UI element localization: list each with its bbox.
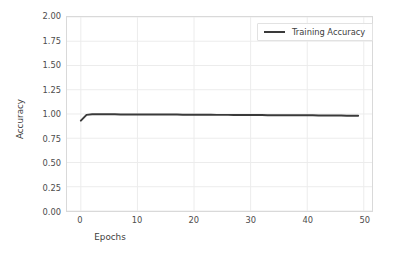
y-tick-label: 2.00 [0, 12, 61, 20]
y-tick-label: 1.25 [0, 85, 61, 93]
y-tick-label: 1.00 [0, 110, 61, 118]
x-axis-title: Epochs [0, 232, 396, 242]
plot-area [66, 16, 373, 212]
y-tick-label: 1.50 [0, 61, 61, 69]
y-tick-label: 1.75 [0, 36, 61, 44]
y-tick-label: 0.75 [0, 134, 61, 142]
x-tick-label: 20 [179, 216, 209, 224]
x-tick-label: 40 [293, 216, 323, 224]
x-tick-label: 0 [65, 216, 95, 224]
x-tick-label: 10 [122, 216, 152, 224]
y-tick-label: 0.50 [0, 159, 61, 167]
x-tick-label: 30 [236, 216, 266, 224]
legend-item-label: Training Accuracy [292, 28, 365, 36]
x-tick-label: 50 [350, 216, 380, 224]
y-tick-label: 0.25 [0, 183, 61, 191]
y-tick-label: 0.00 [0, 208, 61, 216]
y-axis-title: Accuracy [15, 59, 25, 179]
legend: Training Accuracy [257, 23, 373, 41]
line-chart-figure: 0.000.250.500.751.001.251.501.752.00 010… [0, 0, 396, 255]
series-training-accuracy [67, 17, 372, 211]
x-axis-title-text: Epochs [94, 232, 126, 242]
legend-line-swatch [264, 31, 285, 33]
